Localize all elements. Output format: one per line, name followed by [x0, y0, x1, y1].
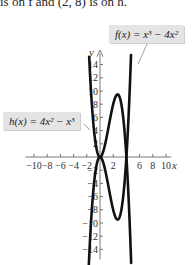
x-tick-label: 10 [161, 160, 171, 171]
f-label-leader [138, 42, 148, 64]
h-label-leader [84, 124, 90, 130]
x-tick-label: 2 [111, 160, 116, 171]
x-tick-label: −4 [68, 160, 79, 171]
x-tick-label: −10 [26, 160, 42, 171]
x-axis-label: x [171, 159, 177, 171]
f-function-label: f(x) = x³ − 4x² [109, 25, 184, 43]
x-tick-label: −8 [42, 160, 53, 171]
x-tick-label: 6 [137, 160, 142, 171]
x-tick-label: −6 [55, 160, 66, 171]
h-function-label: h(x) = 4x² − x³ [3, 112, 80, 130]
x-tick-label: 8 [150, 160, 155, 171]
y-tick-label: 8 [93, 99, 98, 110]
